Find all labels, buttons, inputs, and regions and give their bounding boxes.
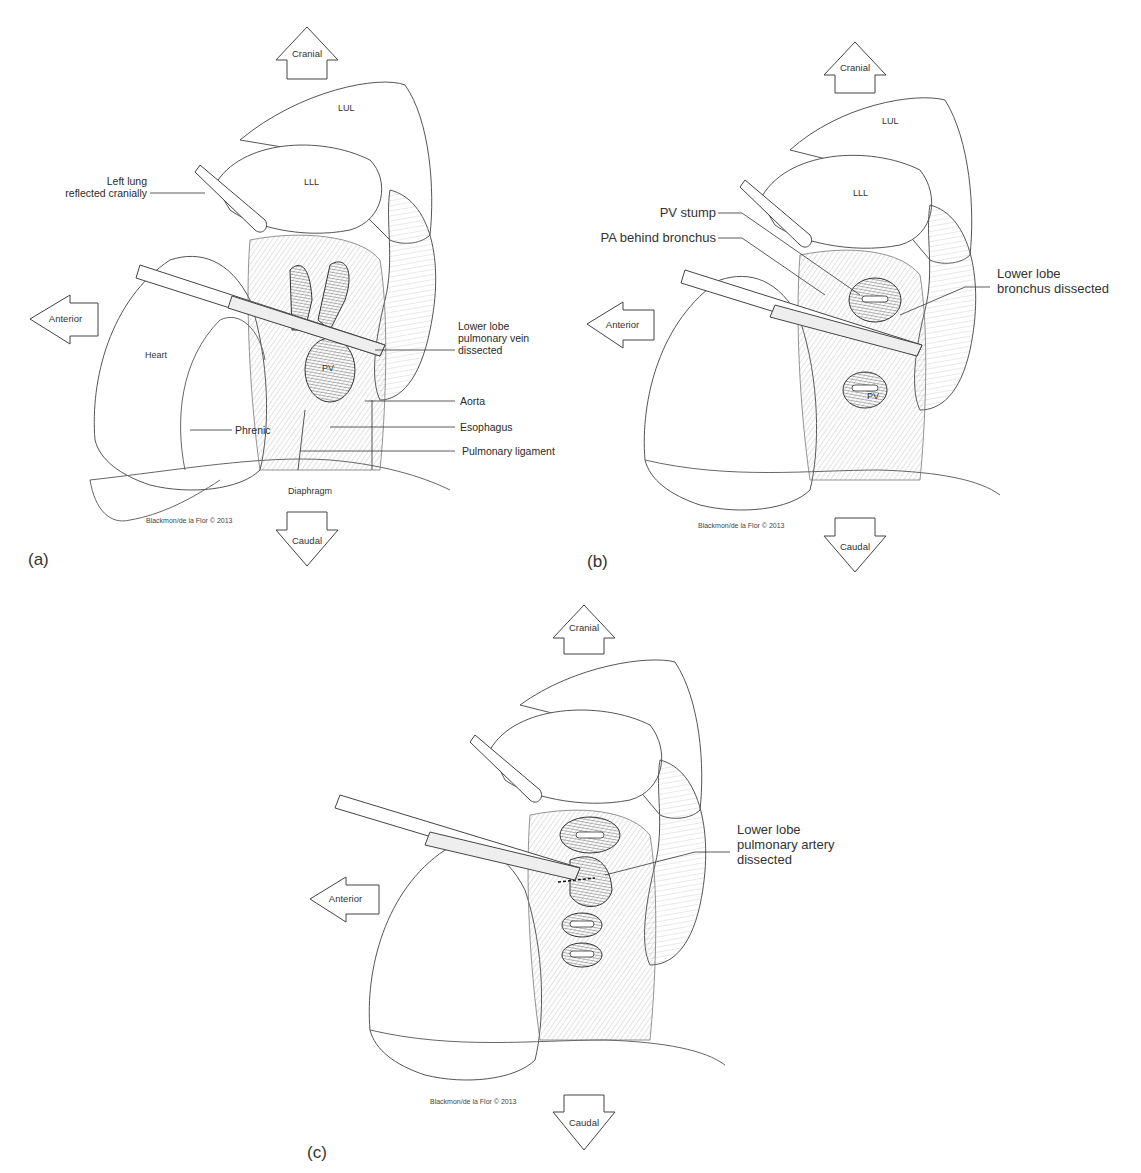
lower-lobe-pa-label: Lower lobe pulmonary artery dissected — [737, 822, 835, 867]
caudal-label: Caudal — [287, 535, 327, 546]
panel-letter-c: (c) — [307, 1143, 327, 1163]
pv-label: PV — [322, 363, 334, 373]
pa-behind-bronchus-label: PA behind bronchus — [580, 230, 716, 245]
aorta-label: Aorta — [460, 395, 485, 407]
lll-label: LLL — [853, 188, 868, 198]
pv-stump-label: PV stump — [610, 205, 716, 220]
left-lung-label: Left lung reflected cranially — [40, 175, 147, 199]
panel-c: Cranial Caudal Anterior Lower lobe pulmo… — [290, 590, 860, 1173]
esophagus-label: Esophagus — [460, 421, 513, 433]
credit: Blackmon/de la Flor © 2013 — [430, 1098, 516, 1105]
panel-letter-b: (b) — [587, 552, 608, 572]
diaphragm-label: Diaphragm — [288, 486, 332, 496]
heart-label: Heart — [145, 350, 167, 360]
panel-letter-a: (a) — [28, 550, 49, 570]
credit: Blackmon/de la Flor © 2013 — [146, 517, 232, 524]
pv-label: PV — [867, 391, 879, 401]
lower-lobe-bronchus-label: Lower lobe bronchus dissected — [997, 266, 1109, 296]
lul-label: LUL — [338, 103, 355, 113]
cranial-label: Cranial — [564, 622, 604, 633]
anterior-label: Anterior — [323, 893, 368, 904]
phrenic-label: Phrenic — [235, 424, 271, 436]
pulmonary-ligament-label: Pulmonary ligament — [462, 445, 555, 457]
anterior-label: Anterior — [600, 319, 645, 330]
panel-c-illustration — [290, 590, 860, 1173]
cranial-label: Cranial — [287, 48, 327, 59]
credit: Blackmon/de la Flor © 2013 — [698, 522, 784, 529]
panel-a: Cranial Caudal Anterior LUL LLL Heart PV… — [0, 0, 570, 580]
anterior-label: Anterior — [43, 313, 88, 324]
lower-lobe-pv-label: Lower lobe pulmonary vein dissected — [458, 320, 529, 356]
lul-label: LUL — [882, 116, 899, 126]
caudal-label: Caudal — [564, 1117, 604, 1128]
lll-label: LLL — [304, 177, 319, 187]
caudal-label: Caudal — [835, 541, 875, 552]
panel-a-illustration — [0, 0, 570, 580]
cranial-label: Cranial — [835, 62, 875, 73]
panel-b: Cranial Caudal Anterior LUL LLL PV PV st… — [570, 0, 1141, 580]
